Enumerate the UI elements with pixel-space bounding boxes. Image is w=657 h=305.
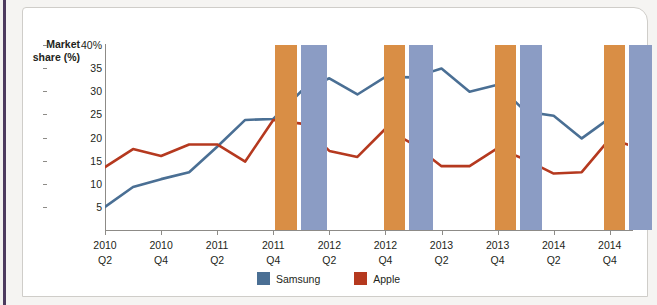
y-axis-tick-label: 5 <box>68 201 102 213</box>
chart-legend: SamsungApple <box>0 272 657 285</box>
y-axis-tick-label: 40% <box>68 39 102 51</box>
series-line-apple <box>105 120 628 174</box>
y-axis-tick-label: 35 <box>68 62 102 74</box>
x-axis-tick-label: 2010Q4 <box>131 238 191 268</box>
x-axis-tick-quarter: Q4 <box>355 253 415 268</box>
market-share-line-chart: Market share (%) 40%3530252015105 2010Q2… <box>0 0 657 305</box>
x-axis-tick-year: 2011 <box>243 238 303 253</box>
y-axis-tick-labels: 40%3530252015105 <box>62 45 102 230</box>
y-axis-tick-mark <box>43 161 47 162</box>
x-axis-tick-mark <box>498 231 499 235</box>
y-axis-tick-mark <box>43 184 47 185</box>
x-axis-tick-label: 2014Q4 <box>580 238 640 268</box>
legend-item-samsung[interactable]: Samsung <box>257 272 320 285</box>
x-axis-tick-year: 2013 <box>412 238 472 253</box>
x-axis-tick-label: 2012Q4 <box>355 238 415 268</box>
highlight-band-samsung <box>629 45 651 230</box>
y-axis-tick-mark <box>43 91 47 92</box>
x-axis-tick-mark <box>161 231 162 235</box>
x-axis-tick-label: 2012Q2 <box>299 238 359 268</box>
x-axis-tick-quarter: Q4 <box>131 253 191 268</box>
y-axis-tick-mark <box>43 114 47 115</box>
x-axis-tick-mark <box>610 231 611 235</box>
x-axis-tick-quarter: Q2 <box>412 253 472 268</box>
highlight-band-apple <box>604 45 625 230</box>
x-axis-tick-year: 2011 <box>187 238 247 253</box>
x-axis-tick-quarter: Q2 <box>299 253 359 268</box>
x-axis-tick-year: 2010 <box>131 238 191 253</box>
x-axis-tick-quarter: Q2 <box>524 253 584 268</box>
x-axis-tick-label: 2014Q2 <box>524 238 584 268</box>
highlight-band-samsung <box>409 45 433 230</box>
x-axis-tick-quarter: Q4 <box>243 253 303 268</box>
x-axis-tick-label: 2010Q2 <box>75 238 135 268</box>
x-axis-tick-label: 2013Q2 <box>412 238 472 268</box>
x-axis-tick-quarter: Q4 <box>468 253 528 268</box>
y-axis-tick-mark <box>43 68 47 69</box>
legend-swatch-samsung <box>257 272 270 285</box>
highlight-band-apple <box>384 45 405 230</box>
x-axis-tick-quarter: Q2 <box>75 253 135 268</box>
x-axis-tick-year: 2013 <box>468 238 528 253</box>
x-axis-tick-mark <box>105 231 106 235</box>
y-axis-tick-label: 10 <box>68 178 102 190</box>
legend-item-apple[interactable]: Apple <box>354 272 400 285</box>
legend-swatch-apple <box>354 272 367 285</box>
series-lines <box>105 45 628 230</box>
x-axis-tick-mark <box>385 231 386 235</box>
x-axis-tick-year: 2012 <box>299 238 359 253</box>
x-axis-tick-year: 2014 <box>524 238 584 253</box>
y-axis-tick-label: 15 <box>68 155 102 167</box>
x-axis-tick-quarter: Q2 <box>187 253 247 268</box>
y-axis-tick-label: 30 <box>68 85 102 97</box>
x-axis-tick-year: 2010 <box>75 238 135 253</box>
x-axis-tick-label: 2011Q4 <box>243 238 303 268</box>
y-axis-tick-label: 25 <box>68 108 102 120</box>
x-axis-tick-year: 2012 <box>355 238 415 253</box>
y-axis-tick-label: 20 <box>68 132 102 144</box>
plot-area <box>105 45 628 230</box>
x-axis-tick-year: 2014 <box>580 238 640 253</box>
x-axis-tick-label: 2011Q2 <box>187 238 247 268</box>
highlight-band-apple <box>275 45 297 230</box>
highlight-band-samsung <box>301 45 326 230</box>
legend-label: Apple <box>373 273 400 285</box>
highlight-band-apple <box>495 45 516 230</box>
y-axis-tick-mark <box>43 45 47 46</box>
x-axis-tick-mark <box>273 231 274 235</box>
legend-label: Samsung <box>276 273 320 285</box>
highlight-band-samsung <box>520 45 542 230</box>
x-axis-tick-mark <box>442 231 443 235</box>
y-axis-tick-mark <box>43 138 47 139</box>
y-axis-tick-mark <box>43 207 47 208</box>
x-axis-tick-mark <box>329 231 330 235</box>
x-axis-tick-mark <box>217 231 218 235</box>
x-axis-tick-label: 2013Q4 <box>468 238 528 268</box>
x-axis-tick-mark <box>554 231 555 235</box>
x-axis-tick-quarter: Q4 <box>580 253 640 268</box>
